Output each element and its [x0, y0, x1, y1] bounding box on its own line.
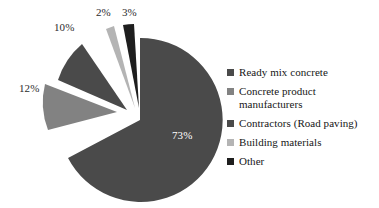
legend-swatch-icon	[227, 158, 234, 165]
pie-svg	[0, 0, 225, 208]
slice-value-label-ready-mix-concrete: 73%	[172, 129, 192, 141]
legend-item-label: Other	[239, 155, 264, 168]
legend-item-label: Contractors (Road paving)	[239, 117, 358, 130]
legend-item-building-materials[interactable]: Building materials	[227, 136, 377, 149]
slice-value-label-building-materials: 2%	[96, 6, 111, 18]
legend-item-ready-mix-concrete[interactable]: Ready mix concrete	[227, 66, 377, 79]
legend-item-other[interactable]: Other	[227, 155, 377, 168]
slice-value-label-contractors-road-paving: 10%	[54, 21, 74, 33]
legend-item-label: Concrete product manufacturers	[239, 85, 377, 111]
legend-swatch-icon	[227, 120, 234, 127]
legend-item-concrete-product-manufacturers[interactable]: Concrete product manufacturers	[227, 85, 377, 111]
slice-value-label-concrete-product-manufacturers: 12%	[19, 82, 39, 94]
legend-swatch-icon	[227, 88, 234, 95]
legend-item-contractors-road-paving[interactable]: Contractors (Road paving)	[227, 117, 377, 130]
chart-legend: Ready mix concrete Concrete product manu…	[227, 66, 377, 174]
legend-swatch-icon	[227, 69, 234, 76]
legend-item-label: Ready mix concrete	[239, 66, 328, 79]
legend-swatch-icon	[227, 139, 234, 146]
pie-chart-figure: 73% 12% 10% 2% 3% Ready mix concrete Con…	[0, 0, 379, 208]
legend-item-label: Building materials	[239, 136, 321, 149]
pie-plot-area: 73% 12% 10% 2% 3%	[0, 0, 225, 208]
slice-value-label-other: 3%	[122, 6, 137, 18]
